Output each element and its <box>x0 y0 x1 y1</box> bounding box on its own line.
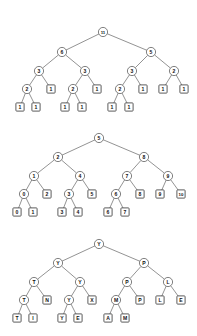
tree-edge <box>134 75 140 86</box>
binary-tree-subtree-sizes: 1165333221212111111111 <box>0 0 197 120</box>
tree-internal-node: 2 <box>169 66 178 75</box>
node-label: Y <box>67 297 71 303</box>
tree-leaf-node: 1 <box>29 208 37 216</box>
tree-leaf-node: 1 <box>16 103 24 111</box>
node-label: 11 <box>101 30 106 35</box>
tree-edge <box>18 304 22 314</box>
tree-edge <box>75 93 80 103</box>
tree-leaf-node: E <box>74 314 82 322</box>
node-label: 7 <box>124 209 127 215</box>
tree-edge <box>37 180 45 191</box>
node-label: Y <box>78 279 82 285</box>
node-label: 2 <box>119 86 122 92</box>
tree-edges <box>21 34 182 104</box>
tree-edge <box>103 140 140 155</box>
node-label: 3 <box>68 191 71 197</box>
tree-internal-node: 3 <box>80 66 89 75</box>
node-label: 3 <box>38 68 41 74</box>
tree-edge <box>135 55 148 68</box>
node-label: X <box>90 297 94 303</box>
tree-figure-3: YYPTYPLTNYXMPLETIYEAM <box>0 230 197 336</box>
node-label: 6 <box>61 49 64 55</box>
node-label: 5 <box>150 49 153 55</box>
tree-edge <box>61 160 76 173</box>
tree-edge <box>63 198 67 208</box>
node-label: E <box>179 297 183 303</box>
tree-edge <box>61 266 76 279</box>
node-label: M <box>123 315 127 321</box>
tree-edge <box>176 75 182 85</box>
tree-internal-node: 5 <box>94 133 103 142</box>
node-label: 1 <box>50 86 53 92</box>
tree-leaf-node: 1 <box>180 85 188 93</box>
tree-edge <box>130 180 138 191</box>
node-label: 3 <box>84 68 87 74</box>
node-label: 9 <box>159 191 162 197</box>
node-label: 8 <box>143 154 146 160</box>
tree-internal-node: 11 <box>98 27 107 36</box>
tree-edge <box>171 286 179 297</box>
tree-edge <box>18 198 22 208</box>
tree-internal-node: 4 <box>75 171 84 180</box>
node-label: 2 <box>57 154 60 160</box>
node-label: 1 <box>35 104 38 110</box>
tree-internal-node: 2 <box>68 84 77 93</box>
tree-edge <box>38 160 55 173</box>
tree-edge <box>118 180 124 190</box>
node-label: 2 <box>173 68 176 74</box>
tree-edge <box>107 34 147 50</box>
tree-internal-node: 1 <box>29 171 38 180</box>
tree-edge <box>110 198 114 208</box>
node-label: 4 <box>77 209 80 215</box>
node-label: 6 <box>115 191 118 197</box>
tree-edge <box>71 198 76 208</box>
node-label: N <box>45 297 49 303</box>
tree-edges <box>18 246 178 315</box>
tree-edge <box>71 180 77 190</box>
tree-edge <box>26 180 32 190</box>
tree-edge <box>71 286 77 296</box>
node-label: 6 <box>107 209 110 215</box>
node-label: 1 <box>33 173 36 179</box>
tree-internal-node: 7 <box>122 171 131 180</box>
tree-figure-1: 1165333221212111111111 <box>0 0 197 120</box>
node-label: 1 <box>32 209 35 215</box>
node-label: 5 <box>91 191 94 197</box>
node-label: 2 <box>46 191 49 197</box>
tree-edge <box>76 75 83 85</box>
tree-internal-node: Y <box>64 295 73 304</box>
tree-internal-node: 2 <box>53 152 62 161</box>
node-label: 3 <box>131 68 134 74</box>
node-label: E <box>76 315 80 321</box>
node-label: P <box>138 297 142 303</box>
tree-internal-node: 9 <box>163 171 172 180</box>
tree-leaf-node: 1 <box>61 103 69 111</box>
node-label: 4 <box>79 173 82 179</box>
tree-edges <box>18 140 178 209</box>
tree-edge <box>103 246 140 261</box>
node-label: 0 <box>16 209 19 215</box>
tree-internal-node: T <box>29 277 38 286</box>
tree-leaf-node: 1 <box>93 85 101 93</box>
tree-edge <box>114 93 118 103</box>
node-label: 1 <box>19 104 22 110</box>
tree-edge <box>123 75 130 85</box>
tree-edge <box>37 286 45 297</box>
tree-leaf-node: L <box>156 296 164 304</box>
tree-edge <box>83 286 90 297</box>
node-label: L <box>166 279 169 285</box>
tree-edge <box>66 55 82 68</box>
tree-leaf-node: 0 <box>13 208 21 216</box>
node-label: 8 <box>139 191 142 197</box>
node-label: P <box>142 260 146 266</box>
node-label: Y <box>60 315 64 321</box>
tree-internal-node: Y <box>94 239 103 248</box>
tree-edge <box>110 304 114 314</box>
tree-leaf-node: N <box>43 296 51 304</box>
tree-leaf-node: 9 <box>156 190 164 198</box>
tree-edge <box>118 304 123 314</box>
tree-edge <box>130 286 138 297</box>
tree-edge <box>30 75 37 85</box>
node-label: Y <box>97 241 101 247</box>
tree-edge <box>165 75 171 86</box>
